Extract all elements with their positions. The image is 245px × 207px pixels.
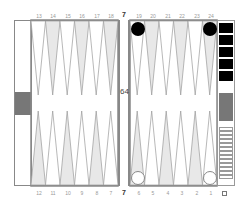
- point-18[interactable]: [104, 21, 119, 95]
- point-label-8: 8: [90, 190, 104, 196]
- borne-off-black: [219, 71, 233, 81]
- point-23[interactable]: [188, 21, 203, 95]
- point-label-6: 6: [132, 190, 146, 196]
- point-label-10: 10: [61, 190, 75, 196]
- point-label-3: 3: [175, 190, 189, 196]
- bottom-left-points: [31, 111, 118, 185]
- point-17[interactable]: [89, 21, 104, 95]
- borne-off-black: [219, 35, 233, 45]
- point-label-5: 5: [146, 190, 160, 196]
- checker-black-point-19[interactable]: [131, 22, 145, 36]
- point-9[interactable]: [75, 111, 90, 185]
- checker-black-point-24[interactable]: [203, 22, 217, 36]
- tray-divider-block: [219, 93, 233, 121]
- point-14[interactable]: [46, 21, 61, 95]
- point-2[interactable]: [188, 111, 203, 185]
- point-13[interactable]: [31, 21, 46, 95]
- point-4[interactable]: [159, 111, 174, 185]
- checker-white-point-6[interactable]: [131, 171, 145, 185]
- doubling-cube[interactable]: 64: [120, 87, 128, 96]
- point-label-2: 2: [190, 190, 204, 196]
- point-label-1: 1: [204, 190, 218, 196]
- point-label-9: 9: [75, 190, 89, 196]
- point-label-11: 11: [46, 190, 60, 196]
- point-label-7: 7: [104, 190, 118, 196]
- point-11[interactable]: [46, 111, 61, 185]
- bear-off-tray[interactable]: [217, 20, 235, 186]
- point-21[interactable]: [159, 21, 174, 95]
- bar-label-bottom: 7: [118, 189, 130, 197]
- borne-off-black: [219, 23, 233, 33]
- point-5[interactable]: [145, 111, 160, 185]
- point-7[interactable]: [104, 111, 119, 185]
- checker-white-point-1[interactable]: [203, 171, 217, 185]
- borne-off-white: [219, 175, 233, 179]
- point-15[interactable]: [60, 21, 75, 95]
- point-20[interactable]: [145, 21, 160, 95]
- borne-off-black: [219, 47, 233, 57]
- center-bar[interactable]: 64: [118, 20, 130, 186]
- point-3[interactable]: [174, 111, 189, 185]
- point-16[interactable]: [75, 21, 90, 95]
- point-label-4: 4: [161, 190, 175, 196]
- top-left-points: [31, 21, 118, 95]
- point-label-12: 12: [32, 190, 46, 196]
- point-12[interactable]: [31, 111, 46, 185]
- point-10[interactable]: [60, 111, 75, 185]
- point-8[interactable]: [89, 111, 104, 185]
- tray-bottom-marker: [222, 191, 227, 196]
- borne-off-black: [219, 59, 233, 69]
- point-22[interactable]: [174, 21, 189, 95]
